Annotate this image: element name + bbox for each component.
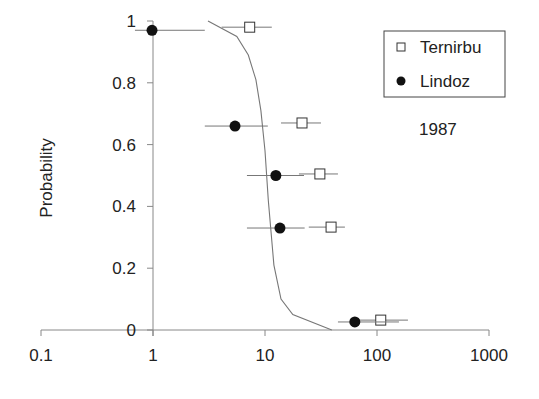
open-square-marker (326, 222, 336, 232)
data-point-lindoz (247, 223, 305, 234)
chart: 0.1110100100000.20.40.60.81 Probability … (0, 0, 539, 399)
data-point-lindoz (338, 316, 399, 327)
open-square-marker (315, 169, 325, 179)
y-tick-label: 1 (127, 12, 136, 31)
data-point-ternirbu (309, 222, 345, 232)
y-tick-label: 0.8 (112, 74, 136, 93)
legend: Ternirbu Lindoz (384, 31, 505, 97)
filled-circle-marker (147, 25, 158, 36)
y-tick-label: 0.6 (112, 136, 136, 155)
legend-label-lindoz: Lindoz (420, 72, 470, 91)
x-tick-label: 0.1 (29, 346, 53, 365)
data-point-ternirbu (299, 169, 338, 179)
year-annotation: 1987 (419, 120, 457, 139)
legend-label-ternirbu: Ternirbu (420, 38, 481, 57)
y-axis-label: Probability (37, 138, 56, 218)
points-layer (135, 22, 408, 327)
data-point-lindoz (205, 121, 268, 132)
open-square-marker (245, 22, 255, 32)
x-tick-label: 100 (363, 346, 391, 365)
data-point-ternirbu (355, 315, 408, 325)
y-tick-label: 0.4 (112, 197, 136, 216)
y-tick-label: 0.2 (112, 259, 136, 278)
open-square-marker (297, 118, 307, 128)
data-point-ternirbu (281, 118, 321, 128)
data-point-lindoz (247, 170, 304, 181)
filled-circle-marker (274, 223, 285, 234)
data-point-lindoz (135, 25, 205, 36)
x-tick-label: 1 (148, 346, 157, 365)
data-point-ternirbu (222, 22, 272, 32)
open-square-marker (376, 315, 386, 325)
filled-circle-marker (270, 170, 281, 181)
x-tick-label: 10 (256, 346, 275, 365)
legend-marker-ternirbu (397, 43, 405, 51)
filled-circle-marker (230, 121, 241, 132)
filled-circle-marker (349, 316, 360, 327)
x-tick-label: 1000 (470, 346, 508, 365)
legend-marker-lindoz (397, 77, 406, 86)
y-tick-label: 0 (127, 321, 136, 340)
